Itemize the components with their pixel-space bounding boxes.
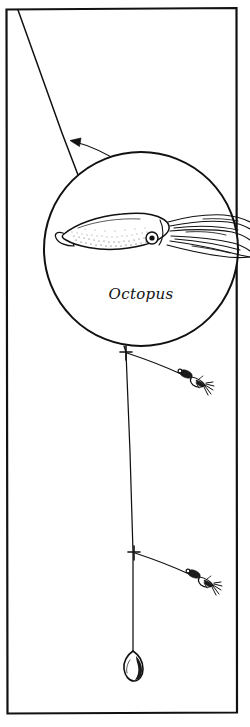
illustration-border [7, 8, 238, 714]
specimen-caption: Octopus [109, 285, 174, 303]
illustration-page: Octopus [0, 0, 250, 727]
octopus-rig-figure: Octopus [0, 0, 250, 727]
eye [146, 232, 158, 244]
